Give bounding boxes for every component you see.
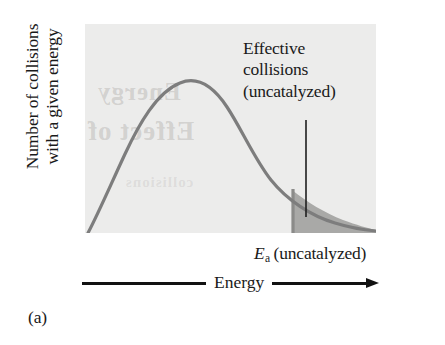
callout-line-1: Effective xyxy=(243,38,336,59)
y-axis-label: Number of collisions with a given energy xyxy=(22,0,63,201)
x-axis-line-left xyxy=(82,282,206,285)
y-axis-label-line-1: Number of collisions xyxy=(22,0,42,201)
callout-line-3: (uncatalyzed) xyxy=(243,81,336,102)
activation-energy-qualifier: (uncatalyzed) xyxy=(274,243,367,263)
x-axis-label: Energy xyxy=(206,274,272,292)
figure-caption: (a) xyxy=(28,307,47,328)
activation-energy-label: Ea (uncatalyzed) xyxy=(254,243,366,264)
y-axis-label-line-2: with a given energy xyxy=(42,0,62,201)
callout-line-2: collisions xyxy=(243,59,336,80)
x-axis: Energy xyxy=(82,271,379,295)
figure-container: Energy Effect of collisions Number of co… xyxy=(0,0,445,345)
x-axis-line-right xyxy=(272,282,367,285)
x-axis-arrow xyxy=(272,278,379,289)
effective-collisions-callout: Effective collisions (uncatalyzed) xyxy=(243,38,336,102)
maxwell-boltzmann-curve xyxy=(88,81,376,233)
activation-energy-subscript: a xyxy=(265,252,270,264)
effective-collisions-shaded-area xyxy=(292,190,376,233)
activation-energy-symbol: E xyxy=(254,243,265,263)
arrow-right-icon xyxy=(366,278,379,288)
